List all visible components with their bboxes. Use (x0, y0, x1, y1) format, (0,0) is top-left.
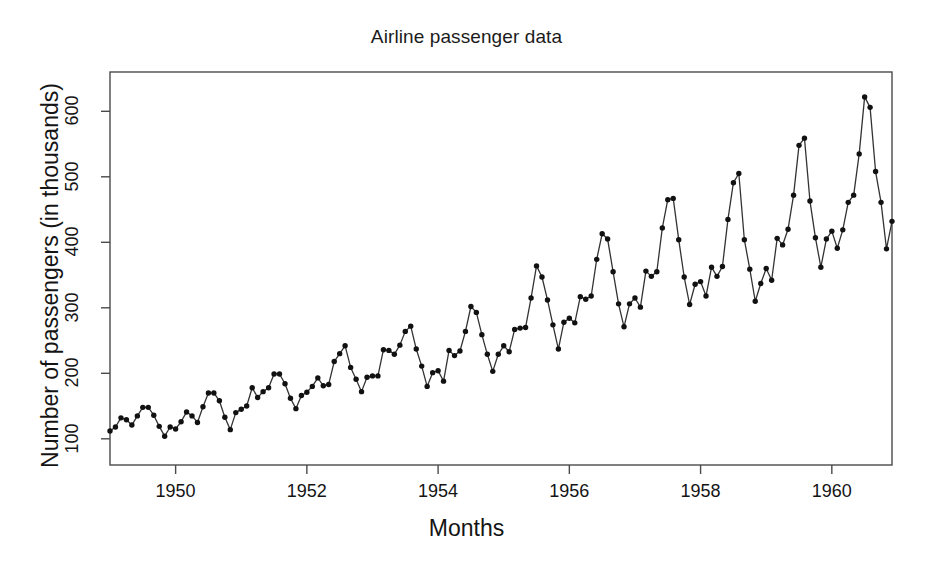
data-series-markers (107, 94, 894, 439)
x-tick-label: 1954 (403, 481, 473, 502)
chart-figure: Airline passenger data 10020030040050060… (0, 0, 933, 568)
x-tick-label: 1958 (666, 481, 736, 502)
x-axis-label: Months (0, 515, 933, 542)
data-series-line (110, 97, 892, 436)
x-axis-ticks (176, 465, 832, 474)
plot-frame (110, 72, 892, 465)
y-axis-label: Number of passengers (in thousands) (37, 66, 64, 486)
y-tick-label: 300 (62, 284, 83, 330)
y-tick-label: 100 (62, 415, 83, 461)
y-tick-label: 600 (62, 88, 83, 134)
y-axis-ticks (101, 111, 110, 439)
x-tick-label: 1952 (272, 481, 342, 502)
x-tick-label: 1960 (797, 481, 867, 502)
y-tick-label: 500 (62, 153, 83, 199)
y-tick-label: 200 (62, 350, 83, 396)
x-tick-label: 1950 (141, 481, 211, 502)
y-tick-label: 400 (62, 219, 83, 265)
x-tick-label: 1956 (534, 481, 604, 502)
